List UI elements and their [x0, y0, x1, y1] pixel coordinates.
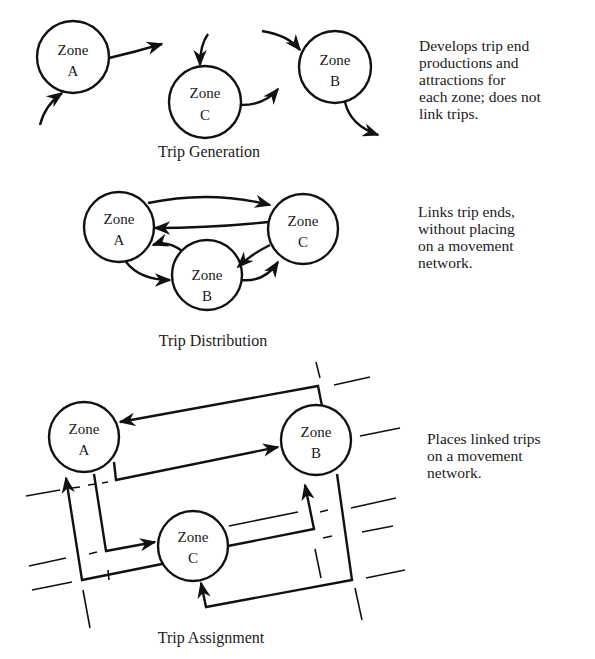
arrow-a-to-c — [148, 197, 270, 205]
arrow-into-zone-b — [262, 31, 300, 50]
road-segment — [89, 552, 97, 554]
zone-a-node — [84, 192, 154, 262]
trip-generation-description: Develops trip end productions and attrac… — [419, 37, 541, 122]
zone-a-letter: A — [68, 63, 79, 79]
zone-a-label: Zone — [69, 421, 100, 437]
arrow-out-of-zone-b — [345, 102, 378, 135]
road-segment — [351, 498, 396, 508]
trip-generation-caption: Trip Generation — [158, 143, 260, 161]
road-segment — [72, 487, 80, 488]
zone-c-label: Zone — [178, 529, 209, 545]
arrow-into-zone-c — [200, 34, 208, 65]
path-c-to-a — [66, 478, 162, 580]
arrow-b-to-a — [153, 243, 182, 251]
arrow-b-to-c — [242, 262, 278, 280]
zone-a-node — [49, 402, 119, 472]
arrow-a-to-b — [126, 262, 170, 280]
zone-b-letter: B — [202, 288, 212, 304]
zone-c-node — [268, 194, 338, 264]
arrow-out-of-zone-a — [109, 44, 162, 58]
trip-assignment-panel — [26, 362, 405, 628]
road-segment — [366, 570, 405, 578]
zone-b-letter: B — [311, 445, 321, 461]
road-segment — [32, 582, 72, 590]
road-segment — [26, 490, 60, 496]
zone-b-letter: B — [330, 73, 340, 89]
zone-c-letter: C — [188, 550, 198, 566]
road-segment — [29, 558, 66, 566]
road-segment — [355, 588, 362, 620]
path-c-to-b — [228, 485, 314, 546]
road-segment — [83, 590, 90, 628]
zone-c-node — [169, 66, 241, 138]
zone-a-letter: A — [79, 442, 90, 458]
zone-a-letter: A — [114, 232, 125, 248]
road-segment — [315, 549, 321, 578]
arrow-c-to-a — [155, 222, 268, 228]
road-segment — [362, 526, 393, 532]
zone-c-label: Zone — [288, 213, 319, 229]
zone-c-label: Zone — [190, 85, 221, 101]
zone-b-label: Zone — [192, 267, 223, 283]
path-a-to-c — [94, 474, 155, 551]
road-segment — [316, 362, 320, 378]
trip-assignment-description: Places linked trips on a movement networ… — [427, 430, 541, 481]
road-segment — [229, 512, 298, 526]
trip-distribution-caption: Trip Distribution — [159, 332, 267, 350]
zone-b-label: Zone — [320, 52, 351, 68]
arrow-c-to-b — [238, 245, 270, 267]
zone-c-letter: C — [298, 234, 308, 250]
zone-a-label: Zone — [58, 42, 89, 58]
zone-c-letter: C — [200, 107, 210, 123]
road-segment — [360, 428, 400, 436]
road-segment — [320, 510, 328, 512]
zone-c-node — [158, 511, 228, 581]
arrow-into-zone-a — [40, 93, 62, 125]
trip-distribution-description: Links trip ends, without placing on a mo… — [418, 203, 515, 271]
trip-assignment-caption: Trip Assignment — [158, 629, 265, 647]
zone-a-label: Zone — [104, 211, 135, 227]
road-segment — [334, 377, 370, 385]
zone-b-label: Zone — [301, 424, 332, 440]
arrow-out-of-zone-c — [241, 89, 278, 105]
road-segment — [323, 536, 332, 538]
path-a-to-b — [114, 447, 278, 480]
zone-b-node — [281, 405, 351, 475]
road-segment — [102, 482, 108, 483]
